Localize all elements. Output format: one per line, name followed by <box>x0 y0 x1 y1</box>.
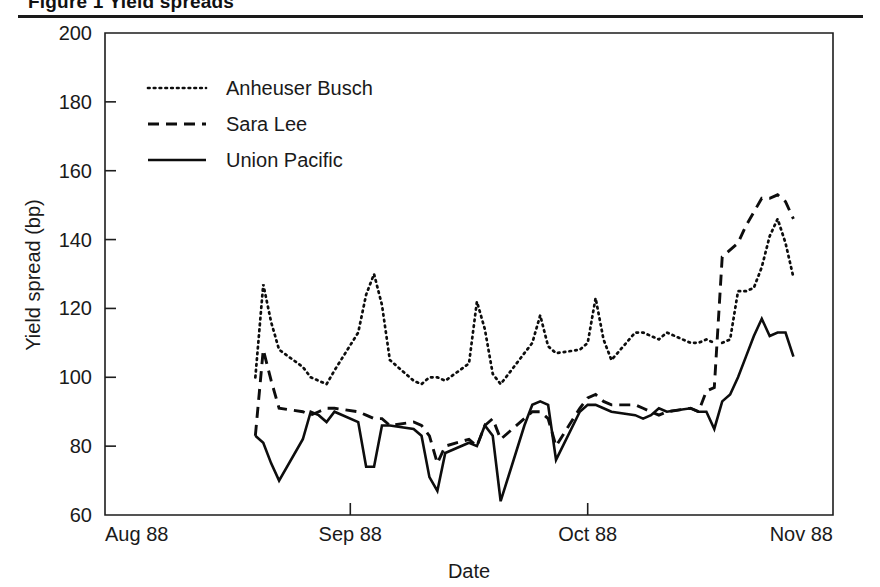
y-tick-label: 140 <box>59 229 92 251</box>
legend-label: Union Pacific <box>226 149 343 171</box>
y-tick-label: 100 <box>59 366 92 388</box>
y-axis: 6080100120140160180200 <box>59 22 116 526</box>
chart-legend: Anheuser BuschSara LeeUnion Pacific <box>148 77 373 171</box>
x-axis-title: Date <box>448 560 490 582</box>
series-line <box>255 319 793 501</box>
x-tick-label: Aug 88 <box>105 523 168 545</box>
y-axis-title: Yield spread (bp) <box>22 199 44 351</box>
y-tick-label: 80 <box>70 435 92 457</box>
x-axis: Aug 88Sep 88Oct 88Nov 88 <box>105 503 833 545</box>
legend-label: Sara Lee <box>226 113 307 135</box>
yield-spread-chart: 6080100120140160180200 Aug 88Sep 88Oct 8… <box>0 0 880 587</box>
y-tick-label: 60 <box>70 504 92 526</box>
x-tick-label: Sep 88 <box>319 523 382 545</box>
y-tick-label: 160 <box>59 160 92 182</box>
y-tick-label: 180 <box>59 91 92 113</box>
legend-label: Anheuser Busch <box>226 77 373 99</box>
series-line <box>255 274 714 384</box>
y-tick-label: 200 <box>59 22 92 44</box>
x-tick-label: Nov 88 <box>770 523 833 545</box>
x-tick-label: Oct 88 <box>558 523 617 545</box>
figure-container: Figure 1 Yield spreads 60801001201401601… <box>0 0 880 587</box>
y-tick-label: 120 <box>59 297 92 319</box>
data-series-group <box>255 195 793 501</box>
